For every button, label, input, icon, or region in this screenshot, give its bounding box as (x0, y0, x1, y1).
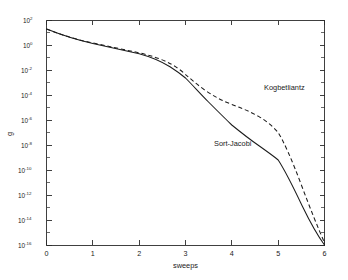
x-tick-label: 2 (137, 249, 141, 258)
x-tick-label: 5 (276, 249, 280, 258)
annotation-kogbetliantz: Kogbetliantz (264, 83, 305, 92)
chart-screenshot: 102 100 10-2 10-4 10-6 10-8 10-10 10-12 … (0, 0, 348, 280)
x-tick-label: 3 (184, 249, 188, 258)
semilog-plot: 102 100 10-2 10-4 10-6 10-8 10-10 10-12 … (0, 0, 348, 280)
y-axis-title: g (5, 132, 14, 136)
x-tick-label: 6 (323, 249, 327, 258)
annotation-sort-jacobi: Sort-Jacobi (214, 139, 252, 148)
x-axis-title: sweeps (173, 261, 198, 270)
x-tick-label: 4 (230, 249, 234, 258)
x-tick-label: 0 (45, 249, 49, 258)
figure-background (0, 0, 348, 280)
x-tick-label: 1 (91, 249, 95, 258)
